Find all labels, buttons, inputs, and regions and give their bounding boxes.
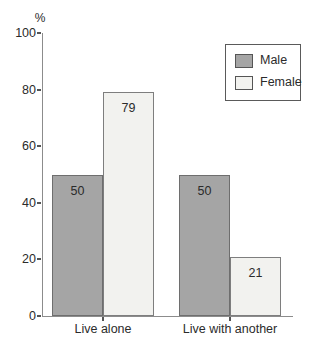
category-label-0: Live alone	[33, 322, 173, 336]
bar-value-label: 50	[180, 184, 229, 198]
female-swatch	[235, 76, 253, 90]
bar-female-1: 21	[230, 257, 281, 316]
y-tick-label-0: 0	[8, 309, 36, 323]
category-label-1: Live with another	[160, 322, 300, 336]
y-tick-60	[37, 145, 41, 147]
bar-female-0: 79	[103, 92, 154, 316]
y-tick-20	[37, 258, 41, 260]
bar-value-label: 79	[104, 101, 153, 115]
y-tick-label-80: 80	[8, 83, 36, 97]
bar-male-1: 50	[179, 175, 230, 317]
y-tick-label-20: 20	[8, 252, 36, 266]
y-tick-100	[37, 32, 41, 34]
x-axis-line	[42, 316, 293, 317]
legend-row-male: Male	[235, 53, 287, 68]
y-tick-0	[37, 315, 41, 317]
legend-row-female: Female	[235, 75, 302, 90]
y-tick-label-40: 40	[8, 196, 36, 210]
x-tick-1	[229, 317, 231, 321]
legend-label-female: Female	[260, 75, 302, 90]
x-tick-0	[102, 317, 104, 321]
y-tick-label-100: 100	[8, 26, 36, 40]
legend: Male Female	[225, 44, 301, 101]
y-axis-unit-label: %	[30, 11, 50, 25]
bar-value-label: 21	[231, 266, 280, 280]
y-tick-label-60: 60	[8, 139, 36, 153]
bar-chart: % 020406080100 50795021 Live aloneLive w…	[0, 0, 318, 355]
bar-value-label: 50	[53, 184, 102, 198]
male-swatch	[235, 54, 253, 68]
legend-label-male: Male	[260, 53, 287, 68]
y-tick-80	[37, 89, 41, 91]
bar-male-0: 50	[52, 175, 103, 317]
y-axis-line	[42, 33, 43, 317]
y-tick-40	[37, 202, 41, 204]
